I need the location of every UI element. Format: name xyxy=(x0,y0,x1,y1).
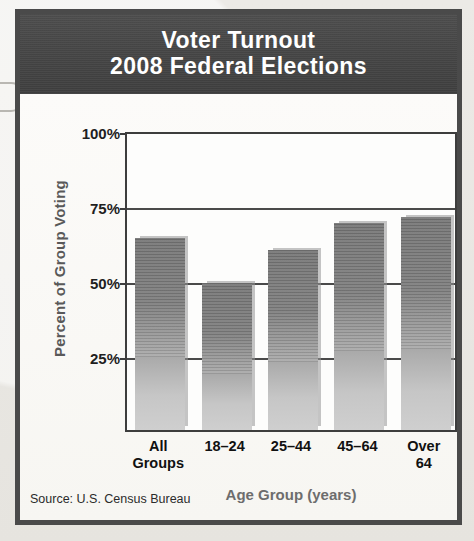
bar-hatch xyxy=(268,250,318,362)
x-tick-label-2: 25–44 xyxy=(255,438,327,455)
x-tick-label-4: Over64 xyxy=(388,438,460,471)
y-tick-mark-50 xyxy=(120,283,127,285)
x-tick-label-1: 18–24 xyxy=(189,438,261,455)
x-tick-label-line: All xyxy=(122,438,194,455)
bar-hatch xyxy=(202,283,252,374)
chart-figure: Voter Turnout 2008 Federal Elections Per… xyxy=(15,9,462,525)
x-tick-label-line: Over xyxy=(388,438,460,455)
bars-layer xyxy=(127,134,455,430)
bar-hatch xyxy=(135,238,185,357)
y-axis-title: Percent of Group Voting xyxy=(51,164,68,374)
chart-title-line-2: 2008 Federal Elections xyxy=(110,54,367,80)
x-tick-label-line: 45–64 xyxy=(321,438,393,455)
bar-hatch xyxy=(401,217,451,349)
bar-25–44 xyxy=(268,250,318,430)
y-tick-label-25: 25% xyxy=(72,350,120,367)
x-tick-label-0: AllGroups xyxy=(122,438,194,471)
y-tick-label-100: 100% xyxy=(72,125,120,142)
x-tick-label-3: 45–64 xyxy=(321,438,393,455)
bar-45–64 xyxy=(334,223,384,430)
y-tick-mark-75 xyxy=(120,208,127,210)
y-tick-mark-100 xyxy=(120,133,127,135)
bar-over-64 xyxy=(401,217,451,430)
chart-title-banner: Voter Turnout 2008 Federal Elections xyxy=(20,14,457,94)
chart-area: Percent of Group Voting 100%75%50%25% Al… xyxy=(20,94,457,520)
x-tick-label-line: 18–24 xyxy=(189,438,261,455)
bar-hatch xyxy=(334,223,384,351)
x-tick-label-line: Groups xyxy=(122,455,194,472)
x-tick-label-line: 25–44 xyxy=(255,438,327,455)
x-axis-tick-labels: AllGroups18–2425–4445–64Over64 xyxy=(125,438,457,484)
bar-all-groups xyxy=(135,238,185,430)
y-tick-label-50: 50% xyxy=(72,275,120,292)
chart-title-line-1: Voter Turnout xyxy=(162,28,316,54)
y-tick-label-75: 75% xyxy=(72,200,120,217)
y-tick-mark-25 xyxy=(120,358,127,360)
bar-18–24 xyxy=(202,283,252,430)
plot-box: 100%75%50%25% xyxy=(125,132,457,432)
source-note: Source: U.S. Census Bureau xyxy=(30,492,191,506)
x-tick-label-line: 64 xyxy=(388,455,460,472)
